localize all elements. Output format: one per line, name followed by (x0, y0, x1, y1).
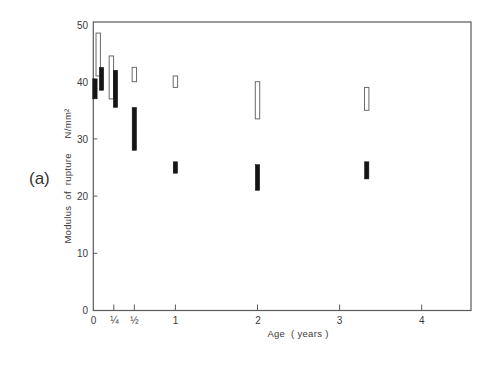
solid-range-bar (132, 107, 136, 150)
y-tick-label: 10 (77, 248, 89, 259)
x-tick-label: 4 (419, 315, 425, 326)
y-tick-label: 0 (82, 305, 88, 316)
open-range-bar (364, 87, 368, 110)
y-tick-labels: 0 10 20 30 40 50 (77, 20, 89, 317)
bars (93, 33, 369, 190)
y-tick-label: 30 (77, 134, 89, 145)
y-axis-title: Modulus of rupture N/mm² (62, 108, 73, 243)
solid-range-bar (364, 162, 368, 179)
solid-range-bar (99, 67, 103, 90)
y-tick-label: 50 (77, 20, 89, 31)
solid-range-bar (113, 70, 117, 107)
y-tick-label: 40 (77, 77, 89, 88)
open-range-bar (132, 67, 136, 81)
open-range-bar (109, 56, 113, 99)
x-tick-label: ½ (130, 315, 139, 326)
x-tick-label: 3 (337, 315, 343, 326)
panel-label: (a) (29, 169, 50, 188)
open-range-bar (255, 82, 259, 119)
y-tick-label: 20 (77, 191, 89, 202)
solid-range-bar (173, 162, 177, 173)
x-tick-label: ¼ (110, 315, 119, 326)
plot-frame (93, 22, 471, 311)
open-range-bar (173, 76, 177, 87)
x-tick-label: 2 (255, 315, 261, 326)
solid-range-bar (255, 165, 259, 191)
x-tick-label: 1 (173, 315, 179, 326)
solid-range-bar (93, 79, 97, 99)
chart: (a) 0 10 20 30 40 50 0 ¼ ½ 1 2 3 4 Age (… (0, 0, 495, 366)
x-tick-labels: 0 ¼ ½ 1 2 3 4 (91, 315, 425, 326)
x-axis-title: Age ( years ) (267, 328, 328, 339)
x-tick-label: 0 (91, 315, 97, 326)
